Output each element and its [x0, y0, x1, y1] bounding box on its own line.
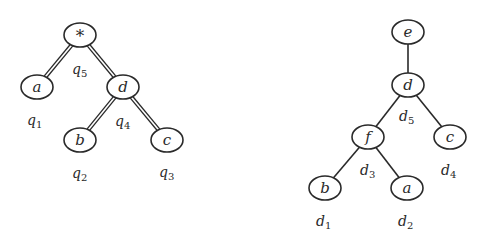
node-query-tree-q5: *	[64, 23, 96, 47]
node-data-tree-d2: a	[391, 176, 423, 200]
edge-q5-q1	[45, 45, 71, 77]
node-label: b	[320, 179, 330, 197]
node-annotation-q1: q1	[27, 112, 42, 130]
node-query-tree-q1: a	[21, 75, 53, 99]
query-tree	[45, 45, 158, 130]
edge-q4-q2	[88, 97, 114, 129]
node-label: d	[118, 78, 128, 96]
node-label: a	[403, 179, 412, 197]
node-data-tree-e: e	[392, 20, 424, 44]
node-data-tree-d3: f	[352, 125, 384, 149]
edges-layer	[45, 44, 441, 178]
edge-q4-q3	[131, 97, 158, 130]
data-tree	[334, 44, 442, 178]
diagram-canvas: *adbcedfcba q5q1q4q2q3d5d3d4d1d2	[0, 0, 479, 238]
node-annotation-q3: q3	[159, 164, 174, 182]
node-label: *	[76, 26, 85, 46]
node-label: c	[446, 128, 455, 146]
node-label: b	[75, 131, 85, 149]
node-label: a	[33, 78, 42, 96]
node-annotation-d4: d4	[441, 162, 456, 180]
node-data-tree-d1: b	[309, 176, 341, 200]
node-annotation-d1: d1	[316, 213, 331, 231]
node-annotation-d5: d5	[399, 108, 414, 126]
node-data-tree-d5: d	[392, 73, 424, 97]
edge-d5-d3	[376, 95, 400, 126]
node-query-tree-q4: d	[107, 75, 139, 99]
node-annotation-d2: d2	[398, 213, 413, 231]
node-annotation-q4: q4	[115, 113, 130, 131]
edge-q5-q4	[88, 45, 114, 77]
node-annotation-d3: d3	[360, 162, 375, 180]
node-label: c	[163, 131, 172, 149]
edge-d3-d2	[376, 147, 399, 177]
edge-d5-d4	[416, 95, 441, 126]
node-label: d	[403, 76, 413, 94]
node-query-tree-q2: b	[64, 128, 96, 152]
node-annotation-q2: q2	[72, 165, 87, 183]
node-query-tree-q3: c	[151, 128, 183, 152]
node-data-tree-d4: c	[434, 125, 466, 149]
node-annotation-q5: q5	[72, 61, 87, 79]
node-label: e	[404, 23, 413, 41]
edge-d3-d1	[334, 147, 360, 178]
